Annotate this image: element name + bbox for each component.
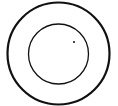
- concentric-circles-diagram: [0, 0, 118, 106]
- center-dot: [73, 41, 75, 43]
- outer-circle: [8, 3, 110, 105]
- inner-circle: [29, 24, 89, 84]
